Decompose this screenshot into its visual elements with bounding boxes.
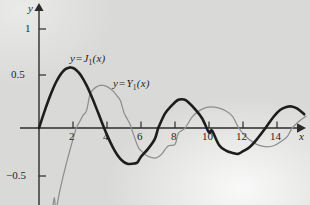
y-axis-ticks — [39, 29, 46, 176]
xtick-label-10: 10 — [202, 131, 213, 142]
ytick-label-neg0p5: −0.5 — [6, 170, 26, 181]
xtick-label-6: 6 — [137, 131, 143, 142]
curve-label-j1-arg: (x) — [93, 52, 106, 64]
curve-label-y1-arg: (x) — [137, 77, 150, 89]
curve-j1 — [39, 67, 304, 164]
y-axis-arrow-icon — [34, 3, 43, 11]
ytick-label-1: 1 — [25, 23, 31, 34]
x-axis-title: x — [299, 131, 304, 142]
figure-panel: 1 0.5 −0.5 2 4 6 8 10 12 14 y x y=J1(x) … — [0, 0, 310, 205]
y-axis — [34, 3, 46, 205]
xtick-label-14: 14 — [270, 131, 281, 142]
y-axis-title: y — [28, 3, 33, 14]
ytick-label-0p5: 0.5 — [11, 69, 25, 80]
curve-y1 — [50, 85, 306, 205]
xtick-label-4: 4 — [103, 131, 109, 142]
xtick-label-2: 2 — [69, 131, 75, 142]
curve-label-y1: y=Y1(x) — [113, 78, 150, 92]
xtick-label-12: 12 — [236, 131, 247, 142]
curve-label-y1-eq: = — [118, 77, 126, 89]
xtick-label-8: 8 — [171, 131, 177, 142]
bessel-function-plot — [0, 0, 310, 205]
curve-label-j1-eq: = — [75, 52, 83, 64]
curve-label-j1: y=J1(x) — [70, 53, 105, 67]
